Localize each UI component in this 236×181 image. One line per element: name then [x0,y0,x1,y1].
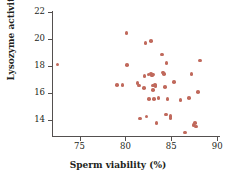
plot-area [52,12,219,136]
x-axis-tick-label-80: 80 [113,141,137,151]
y-axis-tick-label-18: 18 [27,60,45,70]
y-axis-tick-20 [48,39,52,40]
y-axis-tick-label-20: 20 [27,33,45,43]
y-axis-label-text: Lysozyme activity (mm [6,0,16,81]
data-point [142,86,146,90]
data-point [172,80,176,84]
data-point [149,39,153,43]
y-axis-tick-label-14: 14 [27,114,45,124]
data-point [190,72,194,76]
data-point [138,117,142,121]
y-axis-tick-22 [48,12,52,13]
data-point [147,97,151,101]
x-axis-tick-label-90: 90 [205,141,229,151]
data-point [151,88,155,92]
x-axis-label: Sperm viability (%) [0,160,236,170]
data-point [125,31,129,35]
y-axis-tick-18 [48,66,52,67]
scatter-plot-figure: Lysozyme activity (mm2) Sperm viability … [0,0,236,181]
y-axis-label: Lysozyme activity (mm2) [4,0,16,81]
data-point [152,97,156,101]
x-axis-spine [52,136,220,137]
y-axis-tick-label-22: 22 [27,6,45,16]
x-axis-tick-label-85: 85 [159,141,183,151]
data-point [169,116,173,120]
data-point [160,53,164,57]
data-point [121,83,125,87]
data-point [198,59,202,63]
y-axis-tick-14 [48,120,52,121]
data-point [163,85,167,89]
data-point [164,113,168,117]
x-axis-tick-label-75: 75 [68,141,92,151]
data-point [187,96,191,100]
data-point [196,90,200,94]
data-point [115,83,119,87]
y-axis-tick-16 [48,93,52,94]
y-axis-tick-label-16: 16 [27,87,45,97]
y-axis-spine [52,11,53,137]
y-axis-label-container: Lysozyme activity (mm2) [4,0,16,81]
data-point [162,72,166,76]
